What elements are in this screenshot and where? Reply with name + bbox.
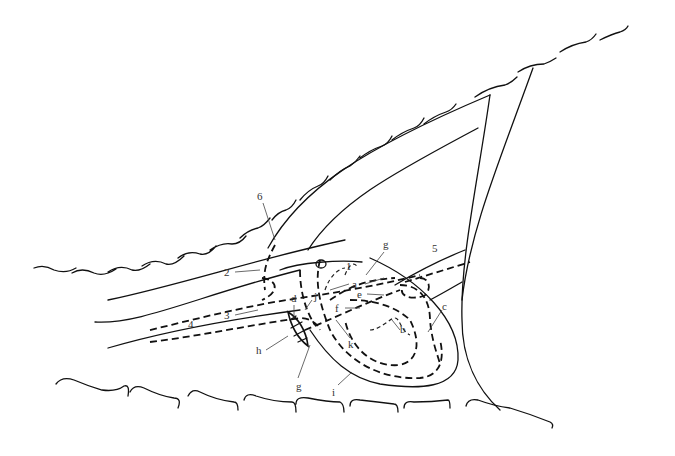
label-1: 1: [346, 260, 352, 272]
label-3: 3: [224, 309, 230, 321]
upper-scalloped-outline: [34, 26, 628, 274]
main-solid-structures: [95, 68, 533, 410]
lower-scalloped-outline: [56, 379, 553, 428]
label-g-bottom: g: [296, 380, 302, 392]
label-j: j: [313, 290, 317, 302]
hatched-region-h: [288, 312, 308, 346]
label-5: 5: [432, 242, 438, 254]
dashed-paths: [150, 245, 470, 378]
schematic-diagram: 6 2 3 4 5 1 d a e f j k g g h i b c: [0, 0, 675, 456]
label-e: e: [357, 288, 362, 300]
label-g-top: g: [383, 238, 389, 250]
label-4: 4: [188, 318, 194, 330]
label-h: h: [256, 344, 262, 356]
label-i: i: [332, 386, 335, 398]
label-k: k: [348, 338, 354, 350]
labels: 6 2 3 4 5 1 d a e f j k g g h i b c: [188, 190, 447, 398]
label-f: f: [335, 302, 339, 314]
label-2: 2: [224, 266, 230, 278]
label-6: 6: [257, 190, 263, 202]
label-c: c: [442, 300, 447, 312]
label-d: d: [291, 292, 297, 304]
label-b: b: [400, 323, 406, 335]
